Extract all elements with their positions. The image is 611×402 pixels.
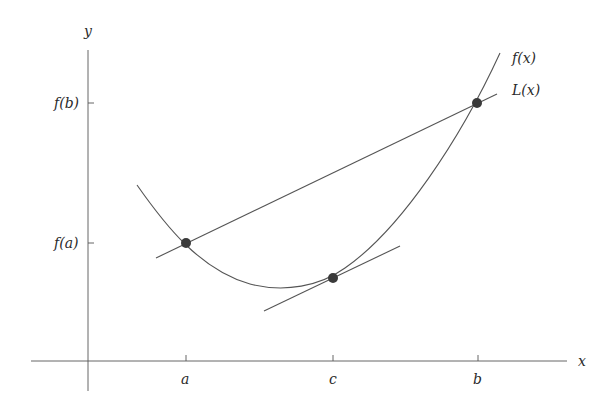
tick-label-fa: f(a) xyxy=(53,235,78,251)
point-c xyxy=(328,273,338,283)
secant-label: L(x) xyxy=(511,82,540,98)
tick-label-a: a xyxy=(181,371,189,387)
f-curve xyxy=(137,53,500,288)
y-axis-label: y xyxy=(83,23,93,39)
x-axis-label: x xyxy=(578,353,586,369)
secant-line xyxy=(156,94,497,258)
tick-label-c: c xyxy=(329,371,337,387)
f-curve-label: f(x) xyxy=(511,50,536,66)
point-b xyxy=(472,98,482,108)
tick-label-b: b xyxy=(473,371,482,387)
tick-label-fb: f(b) xyxy=(53,95,79,111)
point-a xyxy=(181,238,191,248)
diagram-canvas: y x a c b f(b) f(a) f(x) L(x) xyxy=(0,0,611,402)
